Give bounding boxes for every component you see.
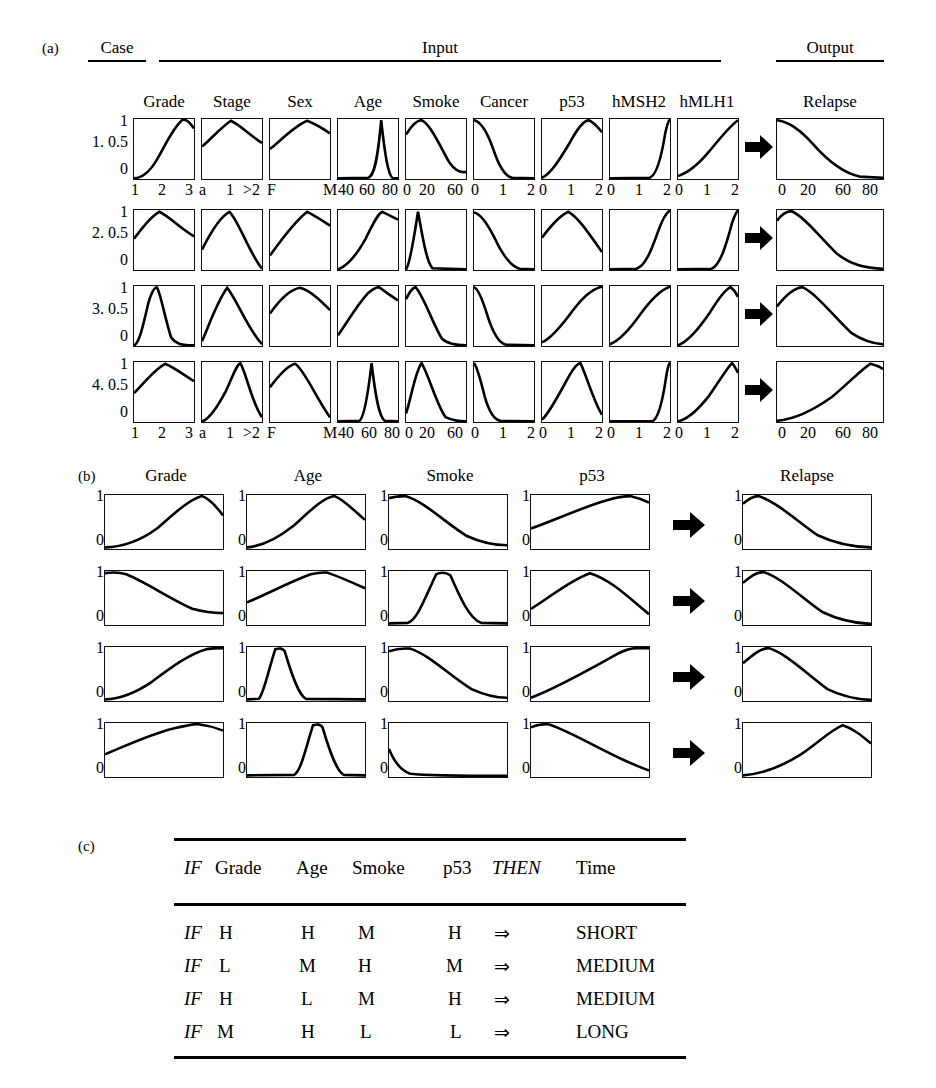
panel-a-cell-r1-stage <box>201 118 263 180</box>
panel-a-cell-r2-hmsh2 <box>609 209 671 271</box>
table-row-4-smoke: L <box>360 1021 372 1043</box>
panel-a-input-header: Input <box>160 38 720 58</box>
panel-a-xtick-r4-p53-0: 0 <box>539 424 547 442</box>
panel-b-cell-r3-smoke <box>388 646 508 702</box>
panel-a-xtick-r4-age-40: 40 <box>338 424 354 442</box>
panel-b-ytick-r4-age-0: 0 <box>226 759 246 777</box>
panel-b-cell-r1-relapse <box>742 494 872 550</box>
panel-a-col-header-cancer: Cancer <box>471 92 537 112</box>
panel-a-xtick-r1-grade-3: 3 <box>185 181 193 199</box>
input-header-rule <box>159 60 721 62</box>
panel-a-col-header-sex: Sex <box>269 92 331 112</box>
panel-b-cell-r3-grade <box>104 646 224 702</box>
table-row-3-if: IF <box>184 988 202 1010</box>
case-header-rule <box>88 60 146 62</box>
table-row-1-time: SHORT <box>576 922 637 944</box>
panel-a-xtick-r4-stage-1: 1 <box>226 424 234 442</box>
panel-b-col-header-p53: p53 <box>532 466 652 486</box>
panel-a-cell-r4-cancer <box>473 361 535 423</box>
panel-a-xtick-r4-stage-gt2: >2 <box>243 424 260 442</box>
panel-b-ytick-r2-age-1: 1 <box>226 563 246 581</box>
panel-a-cell-r4-stage <box>201 361 263 423</box>
panel-b-ytick-r2-smoke-1: 1 <box>368 563 388 581</box>
panel-a-xtick-r1-age-40: 40 <box>338 181 354 199</box>
table-row-1-then: ⇒ <box>494 922 510 945</box>
panel-a-cell-r1-relapse <box>776 118 884 180</box>
table-row-1-grade: H <box>219 922 233 944</box>
panel-a-cell-r3-smoke <box>405 285 467 347</box>
panel-b-cell-r4-p53 <box>530 722 650 778</box>
panel-b-ytick-r4-age-1: 1 <box>226 715 246 733</box>
panel-a-cell-r2-grade <box>133 209 195 271</box>
panel-a-cell-r2-stage <box>201 209 263 271</box>
panel-b-ytick-r3-grade-0: 0 <box>84 683 104 701</box>
panel-b-ytick-r2-age-0: 0 <box>226 607 246 625</box>
panel-b-cell-r1-grade <box>104 494 224 550</box>
panel-b-ytick-r1-smoke-1: 1 <box>368 487 388 505</box>
panel-b-col-header-relapse: Relapse <box>742 466 872 486</box>
panel-b-ytick-r1-grade-1: 1 <box>84 487 104 505</box>
panel-a-xtick-r4-grade-1: 1 <box>131 424 139 442</box>
panel-b-ytick-r1-age-1: 1 <box>226 487 246 505</box>
panel-a-xtick-r1-age-60: 60 <box>359 181 375 199</box>
panel-a-col-header-stage: Stage <box>201 92 263 112</box>
panel-b-ytick-r1-p53-0: 0 <box>510 531 530 549</box>
table-row-4-then: ⇒ <box>494 1021 510 1044</box>
panel-a-xtick-r1-hmlh1-0: 0 <box>675 181 683 199</box>
panel-a-xtick-r1-hmsh2-1: 1 <box>635 181 643 199</box>
panel-a-xtick-r1-smoke-20: 20 <box>419 181 435 199</box>
panel-a-xtick-r4-relapse-20: 20 <box>800 424 816 442</box>
table-row-2-p53: M <box>446 955 463 977</box>
table-header-grade: Grade <box>215 857 261 879</box>
panel-b-ytick-r3-p53-0: 0 <box>510 683 530 701</box>
panel-a-cell-r1-sex <box>269 118 331 180</box>
panel-a-xtick-r4-cancer-0: 0 <box>471 424 479 442</box>
panel-a-cell-r4-p53 <box>541 361 603 423</box>
panel-b-cell-r1-age <box>246 494 366 550</box>
panel-b-ytick-r3-grade-1: 1 <box>84 639 104 657</box>
panel-b-ytick-r3-age-0: 0 <box>226 683 246 701</box>
panel-a-cell-r4-age <box>337 361 399 423</box>
panel-a-cell-r2-hmlh1 <box>677 209 739 271</box>
panel-a-cell-r1-hmlh1 <box>677 118 739 180</box>
table-row-2-if: IF <box>184 955 202 977</box>
panel-b-ytick-r4-smoke-1: 1 <box>368 715 388 733</box>
panel-a-ytick-2-top: 1 <box>100 203 128 221</box>
panel-a-xtick-r4-sex-f: F <box>267 424 276 442</box>
panel-b-cell-r3-age <box>246 646 366 702</box>
table-row-1-p53: H <box>448 922 462 944</box>
panel-a-cell-r4-hmlh1 <box>677 361 739 423</box>
panel-a-xtick-r1-cancer-1: 1 <box>499 181 507 199</box>
panel-a-xtick-r1-age-80: 80 <box>382 181 398 199</box>
panel-a-xtick-r4-hmsh2-1: 1 <box>635 424 643 442</box>
panel-a-xtick-r1-smoke-0: 0 <box>403 181 411 199</box>
panel-b-ytick-r4-p53-1: 1 <box>510 715 530 733</box>
table-header-rule <box>174 903 686 906</box>
panel-a-cell-r3-age <box>337 285 399 347</box>
panel-a-xtick-r1-hmlh1-1: 1 <box>703 181 711 199</box>
table-row-2-then: ⇒ <box>494 955 510 978</box>
panel-a-cell-r4-grade <box>133 361 195 423</box>
table-row-1-age: H <box>301 922 315 944</box>
panel-a-cell-r1-hmsh2 <box>609 118 671 180</box>
panel-b-ytick-r2-grade-0: 0 <box>84 607 104 625</box>
panel-a-cell-r3-cancer <box>473 285 535 347</box>
panel-a-xtick-r4-hmlh1-2: 2 <box>731 424 739 442</box>
panel-a-xtick-r1-cancer-2: 2 <box>527 181 535 199</box>
panel-b-ytick-r1-relapse-1: 1 <box>722 487 742 505</box>
panel-a-xtick-r4-age-80: 80 <box>384 424 400 442</box>
panel-a-ytick-3-top: 1 <box>100 279 128 297</box>
panel-a-xtick-r1-cancer-0: 0 <box>471 181 479 199</box>
panel-a-xtick-r1-sex-f: F <box>267 181 276 199</box>
panel-a-cell-r1-age <box>337 118 399 180</box>
output-header-rule <box>776 60 884 62</box>
panel-b-ytick-r4-grade-1: 1 <box>84 715 104 733</box>
panel-b-col-header-age: Age <box>248 466 368 486</box>
panel-a-cell-r2-age <box>337 209 399 271</box>
panel-a-cell-r4-relapse <box>776 361 884 423</box>
panel-a-cell-r2-p53 <box>541 209 603 271</box>
table-row-3-smoke: M <box>358 988 375 1010</box>
panel-a-xtick-r1-stage-a: a <box>199 181 206 199</box>
panel-a-ytick-2-bot: 0 <box>100 251 128 269</box>
panel-a-cell-r3-relapse <box>776 285 884 347</box>
